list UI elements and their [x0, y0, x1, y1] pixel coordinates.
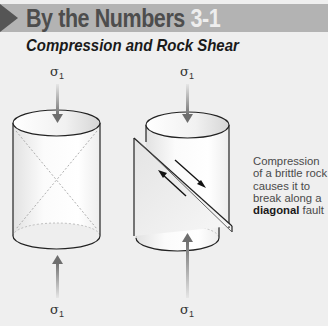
faulted-rock-cylinder — [134, 112, 233, 251]
caption-line: break along a — [253, 192, 333, 204]
caption-line: causes it to — [253, 180, 333, 192]
caption-text: fault — [299, 204, 324, 216]
left-bottom-compression-arrow-icon — [52, 255, 63, 298]
caption-line: of a brittle rock — [253, 167, 333, 179]
caption-line: Compression — [253, 155, 333, 167]
caption-bold-word: diagonal — [253, 204, 299, 216]
right-top-sigma-label: σ1 — [180, 64, 194, 81]
left-bottom-sigma-label: σ1 — [50, 302, 64, 319]
left-top-sigma-label: σ1 — [50, 64, 64, 81]
right-bottom-sigma-label: σ1 — [180, 302, 194, 319]
caption-line: diagonal fault — [253, 204, 333, 216]
intact-rock-cylinder — [13, 110, 100, 249]
figure-caption: Compression of a brittle rock causes it … — [253, 155, 333, 216]
